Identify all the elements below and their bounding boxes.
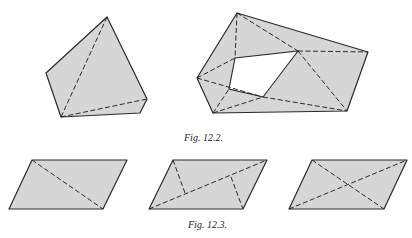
parallelogram-both-diagonals	[289, 160, 407, 209]
diagram-canvas	[0, 0, 412, 238]
pentagon-figure	[46, 17, 147, 117]
parallelogram-perpendiculars	[149, 160, 267, 209]
polygon-with-hole-figure	[197, 13, 368, 113]
figure-caption-12-3: Fig. 12.3.	[188, 219, 227, 230]
parallelogram-one-diagonal	[9, 160, 127, 209]
figure-caption-12-2: Fig. 12.2.	[184, 132, 223, 143]
